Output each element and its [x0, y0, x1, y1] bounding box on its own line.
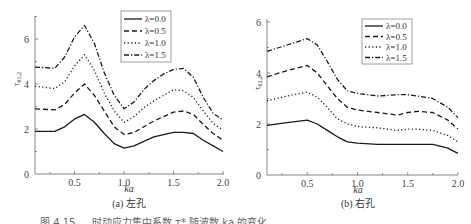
axis-ticks: 0.51.01.52.00246: [256, 17, 464, 190]
legend-label: λ=1.0: [145, 38, 166, 48]
y-tick-label: 6: [24, 34, 29, 45]
x-axis-label: ka: [124, 183, 133, 194]
legend-label: λ=0.0: [145, 14, 166, 24]
x-tick-label: 1.5: [167, 177, 180, 188]
chart-panel-left: 0.51.01.52.00246 τθ1,2 ka (a) 左孔 λ=0.0λ=…: [11, 11, 229, 210]
legend-label: λ=1.0: [386, 42, 407, 52]
y-axis-label: τθ1,2: [11, 72, 22, 86]
series-line: [35, 55, 223, 130]
y-axis-label: τθ2,2: [252, 76, 263, 90]
x-axis-label: ka: [353, 184, 362, 195]
legend: λ=0.0λ=0.5λ=1.0λ=1.5: [362, 19, 412, 64]
x-tick-label: 2.0: [217, 177, 230, 188]
x-tick-label: 2.0: [452, 178, 465, 189]
y-tick-label: 0: [256, 170, 261, 181]
series-line: [267, 120, 458, 153]
panel-label: (b) 右孔: [341, 197, 375, 210]
legend: λ=0.0λ=0.5λ=1.0λ=1.5: [121, 11, 171, 62]
figure-caption: 图 4.15 … 时动应力集中系数 τ* 随波数 ka 的变化: [40, 214, 267, 224]
legend-label: λ=1.5: [386, 53, 407, 63]
y-tick-label: 0: [24, 169, 29, 180]
x-tick-label: 0.5: [68, 177, 81, 188]
legend-label: λ=0.0: [386, 21, 407, 31]
chart-panel-right: 0.51.01.52.00246 τθ2,2 ka (b) 右孔 λ=0.0λ=…: [252, 17, 464, 211]
y-tick-label: 2: [24, 124, 29, 135]
x-tick-label: 1.5: [401, 178, 414, 189]
legend-label: λ=0.5: [145, 26, 166, 36]
series-line: [267, 92, 458, 142]
y-tick-label: 6: [256, 17, 261, 28]
legend-label: λ=0.5: [386, 32, 407, 42]
series-line: [267, 65, 458, 129]
legend-label: λ=1.5: [145, 50, 166, 60]
x-tick-label: 0.5: [301, 178, 314, 189]
figure: 0.51.01.52.00246 τθ1,2 ka (a) 左孔 λ=0.0λ=…: [0, 0, 471, 224]
series-line: [35, 84, 223, 140]
panel-label: (a) 左孔: [112, 197, 146, 210]
y-tick-label: 4: [24, 79, 29, 90]
y-tick-label: 2: [256, 119, 261, 130]
